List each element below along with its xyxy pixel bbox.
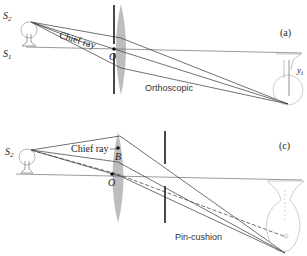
- lamp-bulb-a: [21, 22, 37, 38]
- label-s2-a: S2: [3, 11, 12, 23]
- lens-center-label-c: O: [108, 178, 115, 188]
- s2-sub-c: 2: [10, 151, 14, 159]
- lens-a: [116, 4, 126, 95]
- caption-pin-cushion: Pin-cushion: [175, 233, 222, 242]
- optics-diagram: [0, 0, 307, 256]
- s2-sub-a: 2: [8, 15, 12, 23]
- lamp-stand-c: [21, 161, 33, 173]
- optical-axis-c: [16, 174, 302, 180]
- s1-sub-a: 1: [8, 53, 12, 61]
- yi-sub: i: [301, 69, 303, 77]
- chief-ray-label-c: Chief ray: [70, 144, 110, 154]
- panel-c-drawing: [16, 131, 304, 253]
- image-height-label: yi: [297, 66, 303, 77]
- caption-orthoscopic: Orthoscopic: [145, 84, 193, 93]
- panel-tag-c: (c): [279, 141, 290, 151]
- image-lamp-bulb-a: [273, 75, 303, 105]
- lamp-bulb-c: [19, 149, 35, 165]
- stop-point-b-dot: [116, 146, 120, 150]
- optical-axis-a: [26, 47, 302, 53]
- panel-tag-a: (a): [280, 28, 291, 38]
- lens-center-label-a: O: [109, 52, 116, 62]
- stop-point-label-b: B: [115, 152, 121, 162]
- label-s2-c: S2: [5, 147, 14, 159]
- lens-center-dot-c: [110, 172, 114, 176]
- lamp-stand-a: [22, 34, 36, 46]
- label-s1-a: S1: [3, 49, 12, 61]
